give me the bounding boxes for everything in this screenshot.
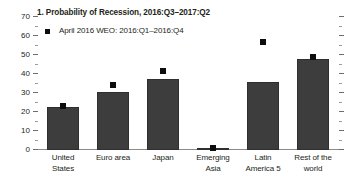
y-axis-tick <box>339 102 342 103</box>
y-axis-tick-label: 40 <box>21 70 30 78</box>
data-point-marker <box>60 103 66 109</box>
x-axis-category-label: UnitedStates <box>38 153 88 174</box>
x-axis-category-label-line: Japan <box>138 153 188 164</box>
y-axis-tick <box>339 149 344 150</box>
data-point-marker <box>110 82 116 88</box>
bar-slot <box>238 17 288 150</box>
x-axis-category-label-line: Emerging <box>188 153 238 164</box>
x-axis-category-label-line: United <box>38 153 88 164</box>
y-axis-tick <box>339 92 344 93</box>
y-axis-tick <box>339 140 342 141</box>
x-axis-category-label: EmergingAsia <box>188 153 238 174</box>
bar <box>147 79 179 150</box>
x-axis-category-label-line: Euro area <box>88 153 138 164</box>
y-axis-tick-label: 10 <box>21 127 30 135</box>
bar <box>97 92 129 150</box>
x-axis-category-labels: UnitedStatesEuro areaJapanEmergingAsiaLa… <box>38 153 338 193</box>
y-axis-tick <box>339 26 342 27</box>
x-axis-category-label-line: world <box>288 164 338 175</box>
y-axis-tick-label: 0 <box>26 146 30 154</box>
recession-probability-chart: 1. Probability of Recession, 2016:Q3–201… <box>0 0 354 195</box>
y-axis-tick <box>339 130 344 131</box>
x-axis-category-label: Japan <box>138 153 188 164</box>
y-axis-tick-label: 70 <box>21 13 30 21</box>
bar <box>297 59 329 150</box>
y-axis-tick <box>339 64 342 65</box>
y-axis-tick <box>339 16 344 17</box>
bar <box>247 82 279 150</box>
y-axis-tick-label: 50 <box>21 51 30 59</box>
y-axis-tick-label: 60 <box>21 32 30 40</box>
data-point-marker <box>310 54 316 60</box>
bar <box>47 107 79 150</box>
bar-slot <box>288 17 338 150</box>
data-point-marker <box>260 39 266 45</box>
y-axis-tick-label: 20 <box>21 108 30 116</box>
y-axis-tick <box>339 121 342 122</box>
bar-slot <box>38 17 88 150</box>
x-axis-category-label-line: Asia <box>188 164 238 175</box>
y-axis-tick <box>339 45 342 46</box>
x-axis-category-label-line: Rest of the <box>288 153 338 164</box>
x-axis-category-label-line: States <box>38 164 88 175</box>
bar-slot <box>88 17 138 150</box>
plot-area: 010203040506070 <box>38 17 338 150</box>
y-axis-tick <box>339 73 344 74</box>
y-axis-tick <box>339 35 344 36</box>
y-axis-tick <box>339 111 344 112</box>
bar-group <box>38 17 338 150</box>
y-axis-tick-label: 30 <box>21 89 30 97</box>
x-axis-category-label-line: America 5 <box>238 164 288 175</box>
x-axis-category-label: Euro area <box>88 153 138 164</box>
x-axis-category-label: Rest of theworld <box>288 153 338 174</box>
x-axis-category-label: LatinAmerica 5 <box>238 153 288 174</box>
data-point-marker <box>210 145 216 151</box>
x-axis-category-label-line: Latin <box>238 153 288 164</box>
bar-slot <box>188 17 238 150</box>
data-point-marker <box>160 68 166 74</box>
y-axis-tick <box>339 83 342 84</box>
y-axis-tick <box>339 54 344 55</box>
bar-slot <box>138 17 188 150</box>
